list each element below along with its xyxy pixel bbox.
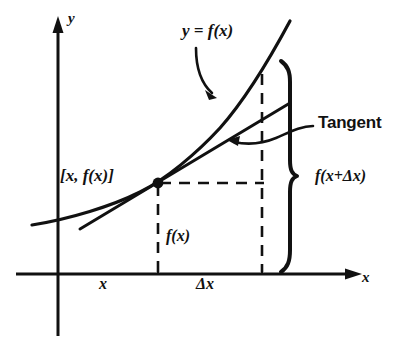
- x-axis-arrowhead: [345, 269, 362, 280]
- function-curve: [32, 21, 290, 225]
- tick-label-x: x: [99, 276, 107, 292]
- tangent-arrow: [227, 126, 313, 146]
- derivative-tangent-figure: y = f(x) [x, f(x)] f(x) f(x+Δx) Tangent …: [0, 0, 416, 350]
- curve-equation-arrow-path: [196, 48, 212, 93]
- fx-delta-label: f(x+Δx): [315, 168, 366, 184]
- curve-equation-arrow: [196, 48, 217, 100]
- fx-delta-brace: [281, 61, 297, 272]
- y-axis-arrowhead: [53, 16, 64, 33]
- curve-equation-label: y = f(x): [182, 22, 233, 39]
- tangent-callout-label: Tangent: [318, 114, 381, 131]
- tangent-point-marker: [153, 178, 164, 189]
- x-axis-label: x: [362, 270, 370, 285]
- tick-label-delta-x: Δx: [196, 276, 214, 292]
- y-axis-label: y: [68, 11, 75, 26]
- fx-label: f(x): [166, 228, 190, 244]
- tangent-point-label: [x, f(x)]: [60, 167, 114, 184]
